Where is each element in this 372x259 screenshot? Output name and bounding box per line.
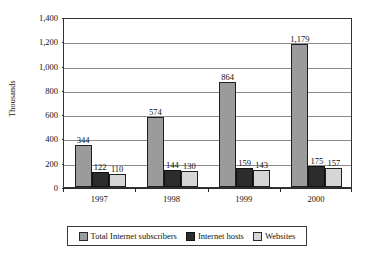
bar-value-label: 143	[255, 161, 268, 170]
bar-chart: Thousands 02004006008001,0001,2001,400 3…	[0, 0, 372, 259]
x-tick-mark	[208, 188, 209, 192]
y-tick-label: 1,200	[39, 38, 58, 47]
bar[interactable]: 175	[308, 166, 325, 187]
bar[interactable]: 130	[181, 171, 198, 187]
legend-swatch-icon	[253, 232, 262, 241]
bar-group: 1,179175157	[291, 19, 342, 187]
legend-item[interactable]: Total Internet subscribers	[79, 232, 177, 241]
legend-label: Websites	[265, 232, 295, 241]
bar-group: 864159143	[219, 19, 270, 187]
chart-legend: Total Internet subscribersInternet hosts…	[67, 226, 307, 246]
x-tick-label: 1997	[91, 194, 108, 204]
bar-value-label: 122	[94, 163, 107, 172]
x-tick-label: 1998	[163, 194, 180, 204]
y-tick-label: 800	[45, 87, 58, 96]
bar-group: 574144130	[147, 19, 198, 187]
x-axis-ticks: 1997199819992000	[63, 188, 352, 208]
bar-value-label: 574	[149, 108, 162, 117]
bar[interactable]: 144	[164, 170, 181, 187]
bars-layer: 3441221105741441308641591431,179175157	[64, 19, 351, 187]
legend-label: Total Internet subscribers	[91, 232, 177, 241]
legend-item[interactable]: Websites	[253, 232, 295, 241]
legend-item[interactable]: Internet hosts	[186, 232, 244, 241]
legend-label: Internet hosts	[198, 232, 244, 241]
bar[interactable]: 157	[325, 168, 342, 187]
legend-swatch-icon	[186, 232, 195, 241]
bar[interactable]: 344	[75, 145, 92, 187]
x-tick-mark	[135, 188, 136, 192]
bar[interactable]: 574	[147, 117, 164, 187]
y-tick-label: 1,000	[39, 62, 58, 71]
bar-value-label: 344	[77, 136, 90, 145]
bar-value-label: 144	[166, 161, 179, 170]
bar[interactable]: 864	[219, 82, 236, 187]
y-axis-title: Thousands	[5, 0, 19, 196]
bar-value-label: 110	[111, 165, 123, 174]
bar-group: 344122110	[75, 19, 126, 187]
x-tick-mark	[280, 188, 281, 192]
bar[interactable]: 110	[109, 174, 126, 187]
y-axis-ticks: 02004006008001,0001,2001,400	[18, 18, 62, 188]
x-tick-mark	[351, 188, 352, 192]
plot-area: 3441221105741441308641591431,179175157	[63, 18, 352, 188]
y-tick-label: 200	[45, 159, 58, 168]
y-axis-title-label: Thousands	[8, 80, 17, 116]
x-tick-label: 1999	[235, 194, 252, 204]
y-tick-label: 1,400	[39, 14, 58, 23]
y-tick-label: 600	[45, 111, 58, 120]
bar-value-label: 157	[328, 159, 341, 168]
bar-value-label: 130	[183, 162, 196, 171]
bar-value-label: 175	[311, 157, 324, 166]
y-tick-label: 400	[45, 135, 58, 144]
bar[interactable]: 1,179	[291, 44, 308, 187]
bar-value-label: 864	[221, 73, 234, 82]
bar-value-label: 1,179	[290, 35, 309, 44]
x-tick-label: 2000	[307, 194, 324, 204]
legend-swatch-icon	[79, 232, 88, 241]
bar-value-label: 159	[238, 159, 251, 168]
y-tick-label: 0	[54, 184, 58, 193]
x-tick-mark	[63, 188, 64, 192]
bar[interactable]: 122	[92, 172, 109, 187]
bar[interactable]: 143	[253, 170, 270, 187]
bar[interactable]: 159	[236, 168, 253, 187]
